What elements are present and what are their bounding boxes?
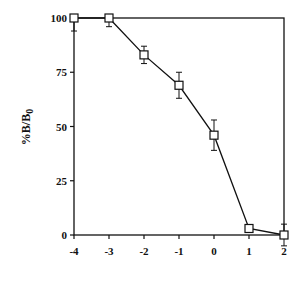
data-point-marker xyxy=(140,51,148,59)
plot-frame xyxy=(74,18,284,235)
data-point-marker xyxy=(245,224,253,232)
data-point-marker xyxy=(175,81,183,89)
data-point-marker xyxy=(280,231,288,239)
data-point-marker xyxy=(70,14,78,22)
y-tick-label: 100 xyxy=(51,12,68,24)
x-tick-label: 2 xyxy=(281,245,287,257)
y-axis-ticks: 0255075100 xyxy=(51,12,75,241)
x-axis-ticks: -4-3-2-1012 xyxy=(69,235,287,257)
x-tick-label: 0 xyxy=(211,245,217,257)
y-tick-label: 25 xyxy=(56,175,68,187)
data-point-marker xyxy=(105,14,113,22)
y-tick-label: 0 xyxy=(62,229,68,241)
y-tick-label: 50 xyxy=(56,121,68,133)
x-tick-label: 1 xyxy=(246,245,252,257)
x-tick-label: -2 xyxy=(139,245,149,257)
data-series xyxy=(70,14,288,246)
x-tick-label: -3 xyxy=(104,245,114,257)
x-tick-label: -4 xyxy=(69,245,79,257)
chart: 0255075100 -4-3-2-1012 %B/B0 xyxy=(0,0,305,281)
y-tick-label: 75 xyxy=(56,66,68,78)
data-point-marker xyxy=(210,131,218,139)
y-axis-title: %B/B0 xyxy=(19,109,35,145)
x-tick-label: -1 xyxy=(174,245,183,257)
